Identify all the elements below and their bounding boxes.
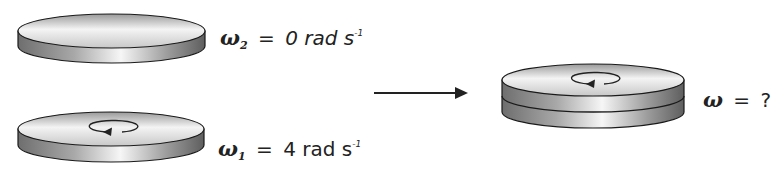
omega-final-label: ω = ?	[703, 87, 771, 112]
disk-2	[18, 14, 205, 63]
omega2-label: ω2 = 0 rad s-1	[220, 25, 363, 52]
combined-disk	[502, 64, 684, 128]
omega1-label: ω1 = 4 rad s-1	[218, 136, 361, 163]
omega-symbol: ω	[220, 25, 240, 50]
disk-1	[18, 112, 204, 162]
omega-symbol: ω	[703, 87, 723, 112]
transition-arrow-icon	[374, 87, 468, 99]
omega-symbol: ω	[218, 136, 238, 161]
diagram-canvas	[0, 0, 778, 171]
